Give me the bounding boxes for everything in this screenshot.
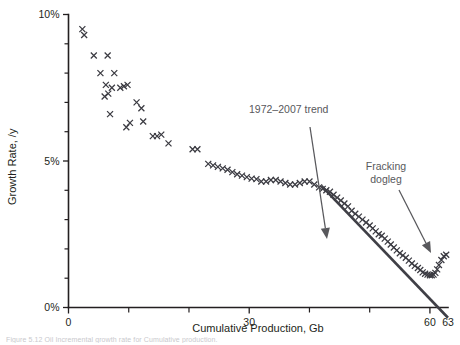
trend-line	[322, 186, 449, 318]
data-point-marker	[220, 165, 226, 171]
data-point-marker	[278, 179, 284, 185]
data-point-marker	[105, 53, 111, 59]
data-point-marker	[239, 173, 245, 179]
growth-rate-scatter-chart: 0%5%10% 0306063 Growth Rate, /y Cumulati…	[0, 0, 460, 345]
x-tick-label: 0	[66, 316, 72, 328]
figure-caption: Figure 5.12 Oil Incremental growth rate …	[6, 336, 460, 343]
figure-container: 0%5%10% 0306063 Growth Rate, /y Cumulati…	[0, 0, 460, 345]
data-point-marker	[205, 161, 211, 167]
data-point-marker	[297, 180, 303, 186]
data-point-marker	[111, 70, 117, 76]
y-axis-title: Growth Rate, /y	[6, 128, 18, 205]
data-point-marker	[273, 177, 279, 183]
fracking-annotation-label-line1: Fracking	[366, 160, 406, 172]
data-point-marker	[134, 99, 140, 105]
y-axis-ticks	[63, 15, 69, 308]
x-tick-label: 60	[424, 316, 436, 328]
data-point-marker	[215, 164, 221, 170]
data-point-marker	[91, 53, 97, 59]
y-tick-label: 0%	[44, 301, 59, 313]
data-point-markers	[79, 26, 449, 278]
trend-annotation-arrow-line	[310, 127, 325, 228]
data-point-marker	[123, 124, 129, 130]
y-tick-label: 5%	[44, 155, 59, 167]
data-point-marker	[282, 180, 288, 186]
data-point-marker	[102, 94, 108, 100]
data-point-marker	[263, 179, 269, 185]
trend-annotation-label: 1972–2007 trend	[249, 103, 329, 115]
fracking-annotation: Fracking dogleg	[366, 160, 431, 253]
data-point-marker	[194, 146, 200, 152]
trend-annotation: 1972–2007 trend	[249, 103, 330, 239]
data-point-marker	[138, 105, 144, 111]
x-axis-ticks	[69, 308, 430, 314]
data-point-marker	[166, 140, 172, 146]
data-point-marker	[140, 118, 146, 124]
data-point-marker	[210, 162, 216, 168]
y-tick-label: 10%	[38, 8, 59, 20]
data-point-marker	[292, 181, 298, 187]
trend-annotation-arrow-head	[321, 227, 330, 239]
data-point-marker	[97, 70, 103, 76]
fracking-annotation-label-line2: dogleg	[370, 173, 402, 185]
data-point-marker	[81, 32, 87, 38]
data-point-marker	[79, 26, 85, 32]
x-axis-title: Cumulative Production, Gb	[192, 322, 323, 334]
data-point-marker	[244, 174, 250, 180]
data-point-marker	[443, 252, 449, 258]
y-axis-tick-labels: 0%5%10%	[38, 8, 59, 313]
data-point-marker	[107, 111, 113, 117]
fracking-annotation-arrow-line	[399, 190, 426, 243]
data-point-marker	[109, 85, 115, 91]
data-point-marker	[103, 82, 109, 88]
